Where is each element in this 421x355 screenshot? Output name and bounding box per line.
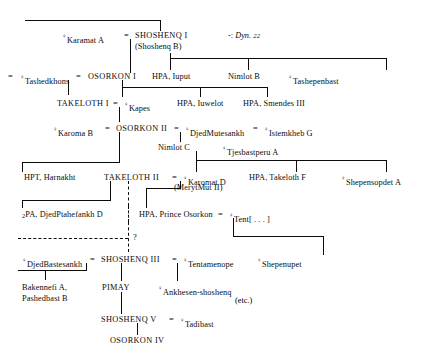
line-sibling-bar-row6-left bbox=[22, 162, 120, 163]
node-osorkon-i: OSORKON I bbox=[88, 72, 136, 82]
marriage-eq-5: = bbox=[174, 124, 179, 133]
line-drop-tashepenbast bbox=[386, 58, 387, 70]
node-takeloth-i: TAKELOTH I bbox=[57, 99, 109, 109]
line-sibling-bar-row6-right bbox=[196, 160, 386, 161]
node-takeloth-ii: TAKELOTH II bbox=[104, 173, 159, 183]
line-shoshenq5-down bbox=[137, 323, 138, 335]
line-dashed-horizontal-uncertain bbox=[18, 238, 128, 239]
node-osorkon-iv: OSORKON IV bbox=[110, 336, 164, 346]
dynasty-dash: -: bbox=[228, 31, 233, 40]
node-shepenupet: Shepenupet bbox=[257, 255, 302, 270]
line-drop-bakennefi bbox=[45, 270, 46, 280]
node-shepensopdet-a: Shepensopdet A bbox=[341, 173, 401, 188]
djedptahefankh-name: PA, DjedPtahefankh D bbox=[25, 210, 103, 219]
line-dashed-takeloth2-down bbox=[128, 181, 129, 206]
line-karoma-down bbox=[119, 132, 120, 162]
node-hpa-smendes-iii: HPA, Smendes III bbox=[243, 99, 305, 109]
marriage-eq-tashedkhons-left: = bbox=[8, 72, 13, 81]
node-pashedbast-b: Pashedbast B bbox=[22, 294, 68, 304]
line-bar-row9-left bbox=[18, 270, 87, 271]
line-dashed-mid-2 bbox=[128, 222, 129, 252]
marriage-eq-9: = bbox=[90, 255, 95, 264]
marriage-eq-7: = bbox=[172, 173, 177, 182]
node-hpa-iuput: HPA, Iuput bbox=[152, 72, 191, 82]
line-tentamenope-down bbox=[177, 263, 178, 281]
marriage-eq-1: = bbox=[124, 31, 129, 40]
line-karomat-d-down bbox=[180, 181, 181, 188]
line-karomat-d-bracket bbox=[146, 188, 181, 189]
marriage-eq-3: = bbox=[113, 99, 118, 108]
node-shoshenq-v: SHOSHENQ V bbox=[101, 315, 157, 325]
node-nimlot-c: Nimlot C bbox=[158, 143, 190, 153]
line-tent-to-shepenupet bbox=[233, 236, 323, 237]
line-harnakht-down bbox=[110, 181, 111, 201]
line-dashed-mid-1 bbox=[128, 206, 129, 222]
marriage-eq-2: = bbox=[76, 72, 81, 81]
node-shoshenq-b: (Shoshenq B) bbox=[135, 42, 182, 52]
line-top-bracket-horizontal bbox=[25, 20, 160, 21]
node-tashepenbast: Tashepenbast bbox=[288, 72, 339, 87]
line-drop-takeloth1 bbox=[122, 87, 123, 97]
node-bakennefi-a: Bakennefi A, bbox=[22, 283, 67, 293]
marriage-eq-4: = bbox=[105, 124, 110, 133]
node-tadibast: Tadibast bbox=[180, 315, 214, 330]
node-tent: Tent[ . . . ] bbox=[229, 210, 270, 225]
line-shoshenq1-to-children bbox=[130, 39, 131, 73]
node-djedbastesankh: DjedBastesankh bbox=[22, 255, 82, 270]
marriage-eq-10: = bbox=[172, 255, 177, 264]
node-merytmut-ii: (MerytMut II) bbox=[174, 183, 223, 193]
line-sibling-bar-row2 bbox=[170, 58, 386, 59]
line-takeloth1-to-osorkon2 bbox=[119, 107, 120, 122]
line-drop-harnakht bbox=[22, 162, 23, 172]
node-djedmutesankh: DjedMutesankh bbox=[185, 124, 244, 139]
line-shepenupet-down bbox=[323, 236, 324, 255]
line-djedmutesankh-down bbox=[180, 132, 181, 142]
marriage-eq-6: = bbox=[253, 124, 258, 133]
line-drop-shepensopdet bbox=[386, 160, 387, 172]
node-kapes: Kapes bbox=[124, 99, 150, 114]
node-tentamenope: Tentamenope bbox=[183, 255, 234, 270]
uncertainty-question-mark: ? bbox=[133, 233, 137, 242]
line-drop-iuput bbox=[170, 58, 171, 70]
line-drop-takeloth-f bbox=[296, 160, 297, 172]
dynasty-annotation: -: Dyn. 22 bbox=[228, 31, 260, 40]
line-shoshenq3-down bbox=[121, 263, 122, 281]
line-prince-osorkon-up bbox=[146, 188, 147, 208]
line-drop-iuwelot bbox=[200, 87, 201, 97]
node-ankhesen-shoshenq: Ankhesen-shoshenq bbox=[158, 283, 231, 298]
node-djedptahefankh-d: 2PA, DjedPtahefankh D bbox=[22, 210, 103, 221]
node-tashedkhons: Tashedkhons bbox=[20, 72, 69, 87]
line-pimay-down bbox=[121, 292, 122, 314]
marriage-eq-8: = bbox=[218, 210, 223, 219]
node-pimay: PIMAY bbox=[102, 283, 130, 293]
node-tjesbastperu-a: Tjesbastperu A bbox=[222, 143, 278, 158]
line-drop-smendes bbox=[267, 87, 268, 97]
dynasty-word: Dyn. bbox=[235, 31, 251, 40]
line-tashedkhons-down bbox=[68, 80, 69, 95]
node-shoshenq-i: SHOSHENQ I bbox=[135, 31, 188, 41]
marriage-eq-11: = bbox=[169, 315, 174, 324]
line-drop-djedptahefankh bbox=[22, 200, 23, 208]
line-drop-takeloth2 bbox=[196, 160, 197, 172]
node-istemkheb-g: Istemkheb G bbox=[264, 124, 313, 139]
line-bar-row7-left bbox=[22, 200, 111, 201]
dynasty-number: 22 bbox=[253, 32, 260, 39]
line-top-bracket-drop bbox=[160, 20, 161, 31]
line-drop-nimlot-b bbox=[248, 58, 249, 70]
node-hpt-harnakht: HPT, Harnakht bbox=[24, 173, 75, 183]
line-sibling-bar-row3 bbox=[122, 87, 267, 88]
node-etc: (etc.) bbox=[235, 296, 252, 305]
node-hpa-takeloth-f: HPA, Takeloth F bbox=[249, 173, 306, 183]
node-hpa-iuwelot: HPA, Iuwelot bbox=[177, 99, 224, 109]
node-karamat-a: Karamat A bbox=[62, 31, 104, 46]
node-osorkon-ii: OSORKON II bbox=[116, 124, 167, 134]
genealogy-chart: Karamat A = SHOSHENQ I (Shoshenq B) -: D… bbox=[0, 0, 421, 355]
node-shoshenq-iii: SHOSHENQ III bbox=[101, 255, 160, 265]
node-karoma-b: Karoma B bbox=[53, 124, 93, 139]
node-nimlot-b: Nimlot B bbox=[228, 72, 260, 82]
node-hpa-prince-osorkon: HPA, Prince Osorkon bbox=[139, 210, 213, 220]
line-tent-down bbox=[233, 218, 234, 237]
